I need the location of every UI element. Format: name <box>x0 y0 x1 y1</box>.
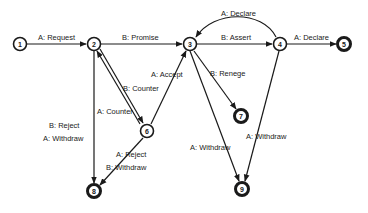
svg-text:1: 1 <box>18 41 22 48</box>
edge-label-2-8-line1: B: Reject <box>49 121 80 130</box>
edge-labels: A: Request B: Promise B: Assert A: Decla… <box>38 9 329 172</box>
edge-label-6-8-line1: A: Reject <box>116 150 147 159</box>
svg-text:3: 3 <box>188 41 192 48</box>
edge-label-a-counter: A: Counter <box>97 107 133 116</box>
edge-label-4-9: A: Withdraw <box>246 132 287 141</box>
edge-label-declare-loop: A: Declare <box>221 9 256 18</box>
edge-label-2-8-line2: A: Withdraw <box>43 134 84 143</box>
state-node-9-terminal: 9 <box>236 183 249 196</box>
state-node-4: 4 <box>274 38 287 51</box>
svg-text:6: 6 <box>145 128 149 135</box>
edge-4-to-9 <box>245 51 279 181</box>
state-node-5-terminal: 5 <box>338 38 351 51</box>
state-transition-diagram: A: Request B: Promise B: Assert A: Decla… <box>0 0 368 213</box>
edge-label-3-9: A: Withdraw <box>190 143 231 152</box>
svg-text:8: 8 <box>92 188 96 195</box>
state-node-7-terminal: 7 <box>235 110 248 123</box>
svg-text:5: 5 <box>342 41 346 48</box>
svg-text:9: 9 <box>240 186 244 193</box>
state-node-3: 3 <box>184 38 197 51</box>
svg-text:7: 7 <box>239 113 243 120</box>
edge-label-request: A: Request <box>38 33 76 42</box>
state-node-1: 1 <box>14 38 27 51</box>
svg-text:2: 2 <box>92 41 96 48</box>
edge-label-promise: B: Promise <box>122 33 159 42</box>
edge-label-declare-final: A: Declare <box>294 33 329 42</box>
edge-label-accept: A: Accept <box>151 70 184 79</box>
state-node-8-terminal: 8 <box>88 185 101 198</box>
edge-6-to-8 <box>100 138 143 185</box>
edge-label-assert: B: Assert <box>221 33 252 42</box>
nodes: 1 2 3 4 5 6 7 8 <box>14 38 351 198</box>
edge-label-b-counter: B: Counter <box>123 84 159 93</box>
svg-text:4: 4 <box>278 41 282 48</box>
edge-label-renege: B: Renege <box>210 69 245 78</box>
state-node-2: 2 <box>88 38 101 51</box>
state-node-6: 6 <box>141 125 154 138</box>
edge-label-6-8-line2: B: Withdraw <box>106 163 147 172</box>
